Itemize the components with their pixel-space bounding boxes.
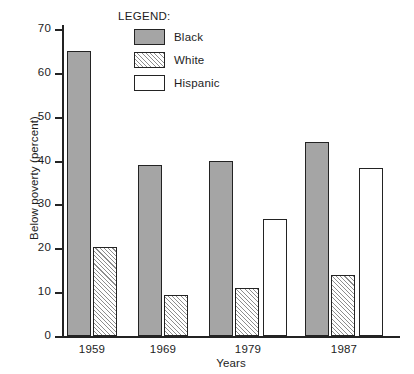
y-tick-mark-20 [55,248,62,250]
legend-label-white: White [174,54,204,66]
y-tick-label-60: 60 [11,67,51,79]
y-tick-label-70: 70 [11,23,51,35]
legend-title: LEGEND: [118,10,258,23]
y-axis-title: Below poverty (percent) [28,78,40,278]
bar-1979-black [209,161,233,336]
y-tick-mark-60 [55,73,62,75]
x-group-label-1969: 1969 [123,343,203,355]
legend-swatch-hispanic-icon [134,75,165,91]
legend-item-white: White [134,51,258,68]
legend-swatch-black-icon [134,29,165,45]
bar-1969-white [164,295,188,336]
bar-1959-black [67,51,91,336]
y-tick-label-10: 10 [11,286,51,298]
poverty-bar-chart: 70 60 50 40 30 20 10 0 Below poverty (pe… [0,0,414,374]
legend-label-black: Black [174,31,203,43]
y-axis-line [62,25,64,338]
y-tick-label-0: 0 [11,330,51,342]
bar-1959-white [93,247,117,336]
legend: LEGEND: Black White Hispanic [118,10,258,97]
x-axis-title: Years [62,357,400,369]
bar-1979-hispanic [263,219,287,336]
y-tick-mark-10 [55,292,62,294]
y-tick-mark-0 [55,336,62,338]
bar-1987-black [305,142,329,336]
bar-1979-white [235,288,259,336]
bar-1987-hispanic [359,168,383,336]
y-tick-mark-30 [55,204,62,206]
y-tick-mark-50 [55,117,62,119]
y-tick-mark-40 [55,161,62,163]
legend-label-hispanic: Hispanic [174,77,220,89]
bar-1969-black [138,165,162,336]
x-axis-line [62,336,400,338]
y-tick-mark-70 [55,29,62,31]
x-group-label-1979: 1979 [208,343,288,355]
x-group-label-1987: 1987 [304,343,384,355]
legend-item-hispanic: Hispanic [134,74,258,91]
legend-swatch-white-icon [134,52,165,68]
legend-item-black: Black [134,28,258,45]
x-group-label-1959: 1959 [52,343,132,355]
bar-1987-white [331,275,355,336]
